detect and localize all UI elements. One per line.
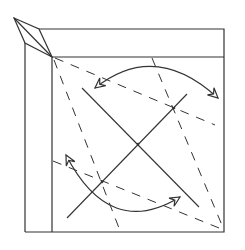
valley-fold-2 — [152, 58, 224, 230]
rotate-arrow-bottom-head-start — [66, 155, 75, 166]
origami-diagram — [0, 0, 245, 250]
diagonal-fold-1 — [82, 88, 199, 207]
rotate-arrow-top — [95, 66, 218, 98]
valley-fold-4 — [53, 161, 224, 230]
flap-center-crease — [14, 18, 52, 57]
intersection-center-dot — [137, 143, 140, 146]
rotate-arrow-top-head-start — [95, 78, 106, 88]
diagonal-fold-2 — [67, 94, 187, 218]
valley-fold-1 — [54, 60, 119, 228]
rotate-arrow-bottom — [66, 155, 180, 211]
intersection-upper-dot — [173, 107, 176, 110]
intersection-lower-dot — [101, 181, 104, 184]
diagram-canvas: Origami folding step: pleat corner with … — [0, 0, 245, 250]
